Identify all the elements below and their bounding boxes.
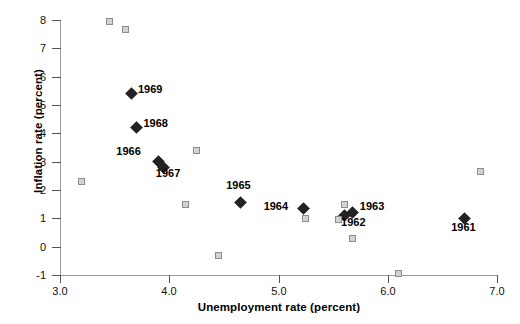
y-tick-label: 0 bbox=[16, 242, 46, 253]
x-tick-label: 4.0 bbox=[149, 286, 189, 297]
data-point-label: 1968 bbox=[143, 118, 167, 129]
data-point-square bbox=[122, 26, 129, 33]
x-tick-mark bbox=[497, 275, 498, 283]
x-tick-label: 5.0 bbox=[259, 286, 299, 297]
x-tick-mark bbox=[279, 275, 280, 283]
data-point-square bbox=[477, 168, 484, 175]
data-point-square bbox=[215, 252, 222, 259]
x-tick-mark bbox=[60, 275, 61, 283]
data-point-square bbox=[349, 235, 356, 242]
x-tick-mark bbox=[169, 275, 170, 283]
data-point-label: 1961 bbox=[451, 222, 475, 233]
y-axis-title: Inflation rate (percent) bbox=[32, 31, 44, 231]
data-point-label: 1967 bbox=[156, 168, 180, 179]
data-point-square bbox=[78, 178, 85, 185]
y-tick-label: 8 bbox=[16, 15, 46, 26]
data-point-square bbox=[341, 201, 348, 208]
x-tick-label: 3.0 bbox=[40, 286, 80, 297]
x-axis-title: Unemployment rate (percent) bbox=[60, 301, 498, 313]
x-tick-label: 6.0 bbox=[368, 286, 408, 297]
data-point-label: 1969 bbox=[138, 84, 162, 95]
data-point-square bbox=[335, 216, 342, 223]
data-point-square bbox=[106, 18, 113, 25]
y-tick-label: -1 bbox=[16, 270, 46, 281]
data-point-label: 1963 bbox=[360, 201, 384, 212]
data-point-square bbox=[395, 270, 402, 277]
data-point-square bbox=[182, 201, 189, 208]
x-tick-label: 7.0 bbox=[477, 286, 517, 297]
data-point-square bbox=[193, 147, 200, 154]
data-point-label: 1966 bbox=[116, 146, 140, 157]
data-point-label: 1965 bbox=[226, 180, 250, 191]
scatter-plot-figure: 876543210-1 3.04.05.06.07.0 Inflation ra… bbox=[0, 0, 520, 324]
data-point-label: 1964 bbox=[264, 201, 288, 212]
data-point-label: 1962 bbox=[341, 217, 365, 228]
data-point-square bbox=[302, 215, 309, 222]
x-tick-mark bbox=[388, 275, 389, 283]
